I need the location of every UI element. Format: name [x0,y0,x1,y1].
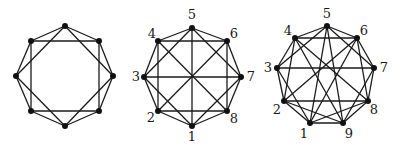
node-label: 1 [188,129,196,144]
node-label: 6 [230,26,238,41]
edge-6-2 [284,38,357,101]
edge-8-9 [343,101,368,123]
edge-5-6 [192,28,227,41]
node-h [28,38,34,44]
edge-4-8 [295,38,368,101]
edge-a-c [65,26,113,76]
node-g [13,73,19,79]
node-label: 3 [132,69,140,84]
node-label: 9 [345,126,353,141]
node-e [62,123,68,129]
edge-a-b [65,26,99,41]
node-5 [189,25,195,31]
graph-3: 123456789 [264,6,388,141]
edge-2-3 [144,77,158,111]
edge-c-d [99,76,113,111]
edge-f-g [16,76,31,111]
node-2 [155,108,161,114]
node-label: 5 [188,7,196,22]
graph-1 [13,23,116,129]
edge-1-8 [310,101,368,123]
node-label: 7 [380,60,388,75]
node-label: 8 [230,111,238,126]
node-label: 4 [148,26,156,41]
edge-g-a [16,26,65,76]
node-b [96,38,102,44]
edge-7-8 [227,77,241,111]
edge-1-2 [158,111,192,126]
edge-3-1 [277,68,310,123]
graph-figure: 12345678 123456789 [0,0,403,145]
node-label: 4 [284,23,292,38]
node-label: 2 [273,102,281,117]
node-2 [281,98,287,104]
node-label: 2 [147,110,155,125]
edge-b-c [99,41,113,76]
node-d [96,108,102,114]
node-label: 7 [247,69,255,84]
node-label: 1 [300,126,308,141]
edge-e-g [16,76,65,126]
edge-4-5 [158,28,192,41]
edge-g-h [16,41,31,76]
edge-d-e [65,111,99,126]
node-7 [371,65,377,71]
edge-8-1 [192,111,227,126]
node-7 [238,74,244,80]
graph-2: 12345678 [132,7,255,144]
node-a [62,23,68,29]
node-f [28,108,34,114]
node-label: 3 [264,60,272,75]
edge-5-6 [327,26,357,38]
edge-1-2 [284,101,310,123]
edge-c-e [65,76,113,126]
node-4 [292,35,298,41]
node-label: 6 [360,23,368,38]
node-5 [324,23,330,29]
node-label: 5 [323,6,331,21]
edge-h-a [31,26,65,41]
node-c [110,73,116,79]
edge-4-5 [295,26,327,38]
edge-6-7 [227,41,241,77]
edge-3-4 [144,41,158,77]
edge-e-f [31,111,65,126]
node-label: 8 [370,102,378,117]
node-3 [274,65,280,71]
node-3 [141,74,147,80]
